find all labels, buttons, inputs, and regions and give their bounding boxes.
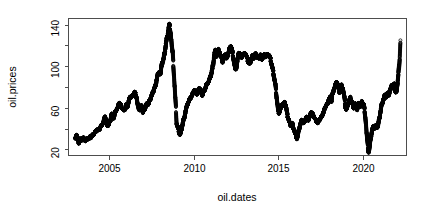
y-tick-label: 60 <box>51 105 62 117</box>
x-tick-label: 2020 <box>352 163 375 174</box>
x-axis-title: oil.dates <box>217 191 256 203</box>
x-tick-label: 2005 <box>98 163 121 174</box>
scatter-plot-svg: 2060100140 2005201020152020 oil.dates oi… <box>0 0 426 216</box>
x-tick-label: 2010 <box>183 163 206 174</box>
y-tick-label: 100 <box>51 61 62 78</box>
y-tick-label: 140 <box>51 19 62 36</box>
y-tick-label: 20 <box>51 147 62 159</box>
plot-background <box>0 0 426 216</box>
y-axis-title: oil.prices <box>6 66 18 107</box>
r-plot-figure: 2060100140 2005201020152020 oil.dates oi… <box>0 0 426 216</box>
x-tick-label: 2015 <box>267 163 290 174</box>
